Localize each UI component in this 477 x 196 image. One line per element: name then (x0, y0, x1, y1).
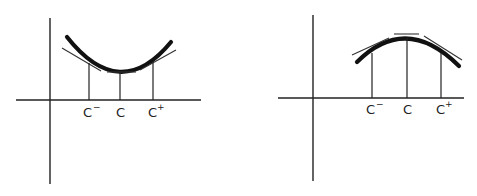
right-tangent-c-plus (424, 36, 462, 60)
right-figure-concave: C − C C + (278, 15, 464, 181)
left-label-c-plus-sup: + (157, 102, 165, 112)
left-label-c-minus-sup: − (93, 102, 101, 112)
right-label-c-minus-sup: − (376, 99, 384, 109)
left-label-c: C (116, 105, 125, 120)
diagram-canvas: C − C C + C − C C + (0, 0, 477, 196)
left-label-c-minus: C (83, 105, 92, 120)
right-label-c-plus-sup: + (445, 99, 453, 109)
left-label-c-plus: C (148, 105, 157, 120)
right-label-c-minus: C (366, 102, 375, 117)
right-label-c: C (403, 102, 412, 117)
left-figure-convex: C − C C + (16, 18, 201, 184)
right-label-c-plus: C (436, 102, 445, 117)
left-curve (67, 37, 171, 72)
